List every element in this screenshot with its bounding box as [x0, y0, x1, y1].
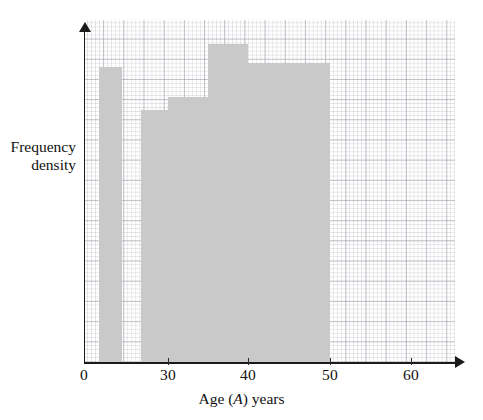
- y-axis-title-line2: density: [31, 156, 76, 173]
- x-axis-arrow-icon: [455, 356, 465, 368]
- x-axis-tick-60: [411, 358, 412, 365]
- histogram-bar-2: [141, 110, 168, 362]
- y-axis-arrow-icon: [79, 22, 91, 32]
- y-axis-title-line1: Frequency: [11, 138, 76, 155]
- x-axis-tick-40: [248, 358, 249, 365]
- x-axis-label-50: 50: [310, 366, 350, 384]
- histogram-bar-4: [208, 44, 248, 362]
- histogram-bar-3: [168, 97, 208, 362]
- x-axis-title: Age (A) years: [0, 390, 483, 408]
- x-axis-title-suffix: ) years: [243, 390, 285, 407]
- x-axis-line: [84, 362, 459, 364]
- histogram-figure: 030405060 Frequency density Age (A) year…: [0, 0, 483, 420]
- y-axis-title: Frequency density: [0, 138, 76, 173]
- x-axis-title-prefix: Age (: [198, 390, 233, 407]
- x-axis-label-0: 0: [64, 366, 104, 384]
- y-axis-line: [84, 30, 86, 363]
- histogram-bar-5: [248, 63, 330, 362]
- x-axis-label-60: 60: [391, 366, 431, 384]
- x-axis-label-40: 40: [228, 366, 268, 384]
- x-axis-title-variable: A: [233, 390, 242, 407]
- x-axis-label-30: 30: [148, 366, 188, 384]
- histogram-bar-1: [99, 67, 122, 362]
- x-axis-tick-30: [168, 358, 169, 365]
- histogram-bars: [0, 0, 483, 420]
- x-axis-tick-50: [330, 358, 331, 365]
